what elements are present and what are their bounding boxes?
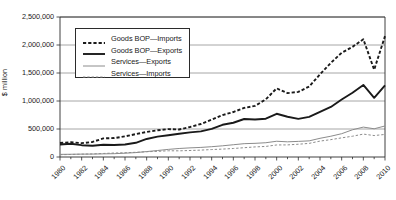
legend-swatch-icon (82, 45, 106, 55)
plot-area (0, 0, 396, 200)
legend-label: Services—Imports (111, 69, 171, 78)
legend-item-0: Goods BOP—Imports (82, 33, 182, 44)
legend-label: Services—Exports (111, 57, 171, 66)
series-line-2 (60, 126, 385, 154)
chart-container: $ million 2,500,0002,000,0001,500,0001,0… (0, 0, 396, 200)
legend-item-2: Services—Exports (82, 56, 171, 67)
chart-legend: Goods BOP—ImportsGoods BOP—ExportsServic… (75, 28, 190, 78)
legend-swatch-icon (82, 57, 106, 67)
series-line-1 (60, 85, 385, 146)
legend-item-1: Goods BOP—Exports (82, 45, 182, 56)
legend-label: Goods BOP—Imports (111, 34, 182, 43)
legend-swatch-icon (82, 68, 106, 78)
legend-label: Goods BOP—Exports (111, 46, 182, 55)
legend-item-3: Services—Imports (82, 68, 171, 79)
legend-swatch-icon (82, 34, 106, 44)
